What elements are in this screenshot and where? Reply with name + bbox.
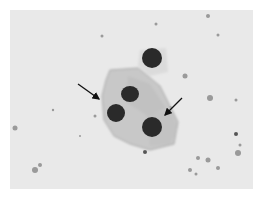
micrograph-svg xyxy=(10,10,253,189)
nucleus-top xyxy=(142,48,162,68)
nucleus-left xyxy=(107,104,125,122)
nucleus-middle xyxy=(121,86,139,102)
micrograph-image xyxy=(10,10,253,189)
nucleus-right xyxy=(142,117,162,137)
